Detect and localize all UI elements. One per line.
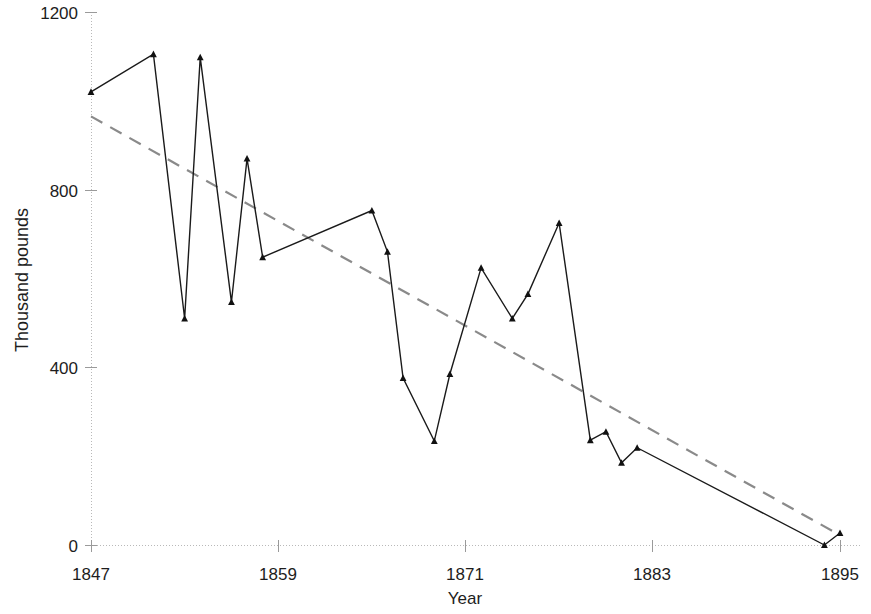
x-tick-label-1847: 1847 <box>72 565 110 584</box>
data-point-marker <box>244 155 251 162</box>
data-point-marker <box>837 529 844 536</box>
x-tick-label-1871: 1871 <box>446 565 484 584</box>
data-point-marker <box>368 207 375 214</box>
line-chart: 1200 800 400 0 1847 1859 1871 1883 1895 … <box>0 0 871 614</box>
data-point-marker <box>228 298 235 305</box>
y-axis-title: Thousand pounds <box>12 208 32 352</box>
y-tick-label-400: 400 <box>50 359 78 378</box>
x-axis-ticks <box>91 540 840 552</box>
y-tick-label-800: 800 <box>50 182 78 201</box>
data-point-marker <box>400 374 407 381</box>
data-point-marker <box>88 88 95 95</box>
y-tick-label-0: 0 <box>69 537 78 556</box>
data-point-marker <box>603 428 610 435</box>
trend-line-series <box>91 116 840 535</box>
data-point-marker <box>431 437 438 444</box>
data-point-marker <box>197 54 204 61</box>
data-point-marker <box>556 219 563 226</box>
x-tick-label-1895: 1895 <box>821 565 859 584</box>
y-tick-label-1200: 1200 <box>40 4 78 23</box>
x-tick-label-1883: 1883 <box>633 565 671 584</box>
x-axis-title: Year <box>448 589 483 608</box>
data-point-marker <box>634 444 641 451</box>
data-point-marker <box>447 370 454 377</box>
data-point-marker <box>587 437 594 444</box>
data-point-marker <box>150 51 157 58</box>
chart-container: 1200 800 400 0 1847 1859 1871 1883 1895 … <box>0 0 871 614</box>
data-point-marker <box>384 248 391 255</box>
data-point-marker <box>478 264 485 271</box>
data-point-marker <box>525 290 532 297</box>
x-tick-label-1859: 1859 <box>259 565 297 584</box>
data-point-marker <box>181 315 188 322</box>
